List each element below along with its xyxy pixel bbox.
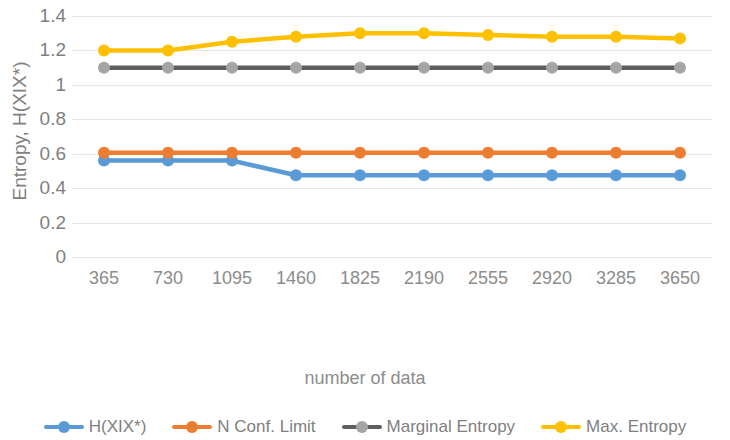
data-point-marker — [162, 147, 174, 159]
legend-marker-dot-icon — [356, 421, 368, 433]
x-axis-tick: 2920 — [517, 268, 587, 289]
series-marginal-entropy — [98, 62, 686, 74]
data-point-marker — [290, 169, 302, 181]
x-axis-tick: 3650 — [645, 268, 715, 289]
legend-label: Marginal Entropy — [387, 418, 516, 436]
entropy-line-chart: Entropy, H(XIX*) 1.41.210.80.60.40.20 36… — [0, 0, 730, 440]
data-point-marker — [610, 147, 622, 159]
legend-swatch-icon — [172, 420, 212, 434]
legend-label: N Conf. Limit — [217, 418, 315, 436]
data-point-marker — [354, 147, 366, 159]
x-axis-tick: 2555 — [453, 268, 523, 289]
y-axis-tick: 0.4 — [14, 178, 66, 198]
x-axis-tick: 1095 — [197, 268, 267, 289]
legend-swatch-icon — [44, 420, 84, 434]
data-point-marker — [482, 29, 494, 41]
gridline — [72, 257, 712, 258]
data-point-marker — [546, 169, 558, 181]
x-axis-tick-labels: 36573010951460182521902555292032853650 — [72, 268, 712, 298]
data-point-marker — [290, 62, 302, 74]
x-axis-title: number of data — [0, 368, 730, 389]
x-axis-tick: 3285 — [581, 268, 651, 289]
x-axis-tick: 2190 — [389, 268, 459, 289]
data-point-marker — [546, 62, 558, 74]
series-layer — [72, 16, 712, 257]
x-axis-tick: 730 — [133, 268, 203, 289]
legend-marker-dot-icon — [58, 421, 70, 433]
data-point-marker — [418, 169, 430, 181]
data-point-marker — [98, 147, 110, 159]
data-point-marker — [610, 62, 622, 74]
chart-legend: H(XIX*)N Conf. LimitMarginal EntropyMax.… — [0, 414, 730, 440]
data-point-marker — [610, 169, 622, 181]
data-point-marker — [162, 44, 174, 56]
series-max-entropy — [98, 27, 686, 56]
series-line — [104, 161, 680, 176]
data-point-marker — [546, 31, 558, 43]
data-point-marker — [482, 147, 494, 159]
data-point-marker — [226, 147, 238, 159]
data-point-marker — [354, 169, 366, 181]
legend-swatch-icon — [541, 420, 581, 434]
legend-label: Max. Entropy — [586, 418, 686, 436]
data-point-marker — [674, 169, 686, 181]
series-n-conf-limit — [98, 147, 686, 159]
data-point-marker — [98, 62, 110, 74]
legend-marker-dot-icon — [555, 421, 567, 433]
data-point-marker — [610, 31, 622, 43]
legend-item-n-conf-limit[interactable]: N Conf. Limit — [172, 418, 315, 436]
data-point-marker — [162, 62, 174, 74]
data-point-marker — [482, 62, 494, 74]
data-point-marker — [98, 44, 110, 56]
y-axis-tick: 0 — [14, 247, 66, 267]
data-point-marker — [674, 32, 686, 44]
y-axis-tick: 1 — [14, 75, 66, 95]
y-axis-tick: 0.8 — [14, 109, 66, 129]
series-line — [104, 33, 680, 50]
x-axis-tick: 365 — [69, 268, 139, 289]
data-point-marker — [226, 62, 238, 74]
y-axis-tick-labels: 1.41.210.80.60.40.20 — [14, 0, 66, 270]
legend-item-h-xix[interactable]: H(XIX*) — [44, 418, 147, 436]
y-axis-tick: 1.2 — [14, 40, 66, 60]
y-axis-tick: 0.6 — [14, 144, 66, 164]
y-axis-tick: 0.2 — [14, 213, 66, 233]
data-point-marker — [546, 147, 558, 159]
data-point-marker — [674, 62, 686, 74]
data-point-marker — [226, 36, 238, 48]
legend-item-max-entropy[interactable]: Max. Entropy — [541, 418, 686, 436]
data-point-marker — [674, 147, 686, 159]
y-axis-tick: 1.4 — [14, 6, 66, 26]
data-point-marker — [418, 147, 430, 159]
data-point-marker — [290, 31, 302, 43]
data-point-marker — [418, 62, 430, 74]
series-h-xix — [98, 155, 686, 182]
data-point-marker — [418, 27, 430, 39]
plot-area — [72, 16, 712, 257]
x-axis-tick: 1460 — [261, 268, 331, 289]
data-point-marker — [354, 27, 366, 39]
x-axis-tick: 1825 — [325, 268, 395, 289]
legend-marker-dot-icon — [186, 421, 198, 433]
data-point-marker — [290, 147, 302, 159]
legend-item-marginal-entropy[interactable]: Marginal Entropy — [342, 418, 516, 436]
data-point-marker — [354, 62, 366, 74]
legend-swatch-icon — [342, 420, 382, 434]
legend-label: H(XIX*) — [89, 418, 147, 436]
data-point-marker — [482, 169, 494, 181]
